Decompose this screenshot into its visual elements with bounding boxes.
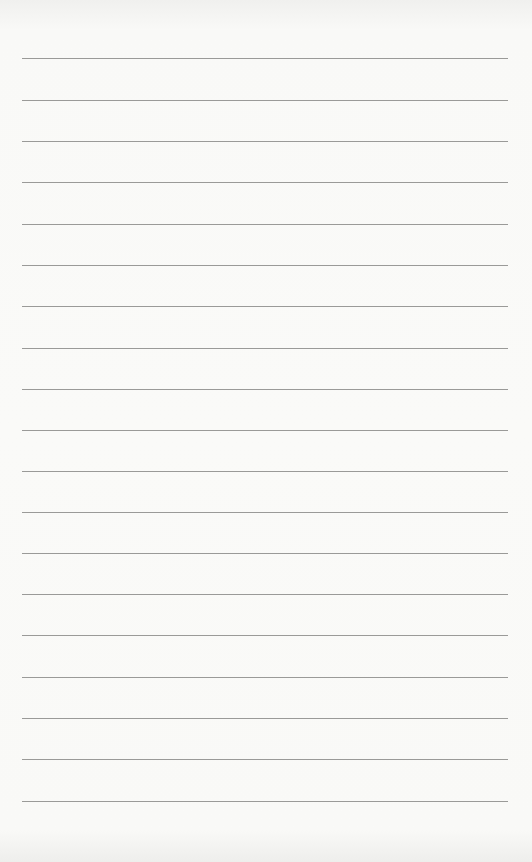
ruled-line <box>22 430 508 431</box>
ruled-line <box>22 801 508 802</box>
ruled-line <box>22 306 508 307</box>
ruled-line <box>22 553 508 554</box>
ruled-line <box>22 718 508 719</box>
ruled-line <box>22 635 508 636</box>
lined-paper-sheet <box>0 0 532 862</box>
ruled-line <box>22 224 508 225</box>
ruled-line <box>22 677 508 678</box>
ruled-line <box>22 348 508 349</box>
ruled-line <box>22 594 508 595</box>
ruled-line <box>22 100 508 101</box>
ruled-line <box>22 182 508 183</box>
ruled-line <box>22 265 508 266</box>
ruled-line <box>22 759 508 760</box>
ruled-line <box>22 141 508 142</box>
ruled-line <box>22 389 508 390</box>
ruled-line <box>22 471 508 472</box>
ruled-line <box>22 58 508 59</box>
ruled-line <box>22 512 508 513</box>
